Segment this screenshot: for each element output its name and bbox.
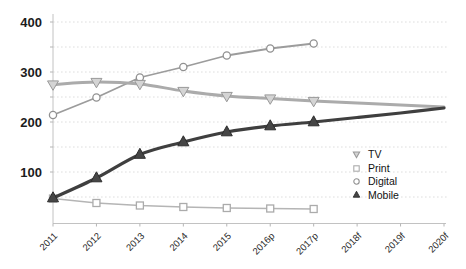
marker-print: [267, 205, 274, 212]
x-tick-label: 2012: [80, 230, 103, 253]
legend-item-print: Print: [352, 161, 399, 174]
x-tick-label: 2020f: [426, 230, 451, 255]
marker-print: [136, 202, 143, 209]
x-tick-label: 2018f: [339, 230, 364, 255]
y-tick-label: 200: [20, 115, 42, 130]
x-tick-label: 2019f: [382, 230, 407, 255]
line-chart: 100200300400201120122013201420152016p201…: [0, 0, 466, 269]
print-square-icon: [352, 164, 361, 173]
legend-item-mobile: Mobile: [352, 188, 399, 201]
marker-digital: [310, 40, 317, 47]
series-line-tv: [53, 82, 444, 107]
x-tick-label: 2017p: [294, 230, 320, 256]
marker-print: [223, 205, 230, 212]
x-tick-label: 2014: [167, 230, 190, 253]
marker-digital: [267, 45, 274, 52]
x-tick-label: 2015: [210, 230, 233, 253]
y-tick-label: 300: [20, 65, 42, 80]
mobile-triangle-up-icon: [352, 190, 361, 199]
chart-canvas: 100200300400201120122013201420152016p201…: [0, 0, 466, 269]
y-tick-label: 100: [20, 165, 42, 180]
marker-digital: [49, 111, 56, 118]
legend-label-print: Print: [368, 163, 390, 174]
x-tick-label: 2016p: [250, 230, 276, 256]
legend-label-mobile: Mobile: [368, 190, 399, 201]
marker-print: [310, 206, 317, 213]
tv-triangle-down-icon: [352, 150, 361, 159]
legend-label-digital: Digital: [368, 176, 397, 187]
digital-circle-icon: [352, 177, 361, 186]
legend: TV Print Digital Mobile: [352, 148, 399, 202]
x-tick-label: 2013: [124, 230, 147, 253]
legend-item-digital: Digital: [352, 175, 399, 188]
marker-digital: [93, 94, 100, 101]
x-tick-label: 2011: [37, 230, 59, 252]
marker-print: [180, 204, 187, 211]
y-tick-label: 400: [20, 15, 42, 30]
marker-digital: [180, 63, 187, 70]
legend-label-tv: TV: [368, 149, 381, 160]
legend-item-tv: TV: [352, 148, 399, 161]
marker-digital: [223, 52, 230, 59]
marker-print: [93, 200, 100, 207]
